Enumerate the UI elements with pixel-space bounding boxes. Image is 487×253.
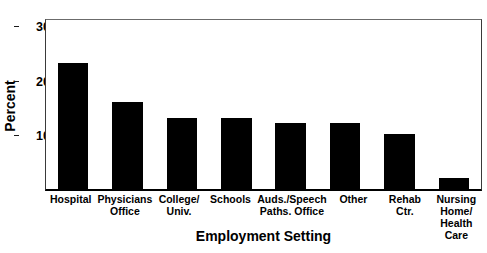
y-tick-mark [14,81,19,82]
bar-slot [100,20,154,189]
bar [330,123,360,189]
bar-chart-figure: Percent 102030 HospitalPhysicians Office… [0,0,487,253]
y-tick-mark [14,26,19,27]
bar-series [46,20,481,189]
y-tick-mark [14,135,19,136]
x-axis-title: Employment Setting [45,228,482,244]
bar-slot [264,20,318,189]
bar-slot [155,20,209,189]
bar [275,123,305,189]
plot-area [45,19,482,191]
bar [439,178,469,189]
bar [221,118,251,189]
bar [384,134,414,189]
bar [58,63,88,189]
bar-slot [318,20,372,189]
bar [167,118,197,189]
bar [112,102,142,189]
bar-slot [46,20,100,189]
bar-slot [209,20,263,189]
bar-slot [427,20,481,189]
bar-slot [372,20,426,189]
